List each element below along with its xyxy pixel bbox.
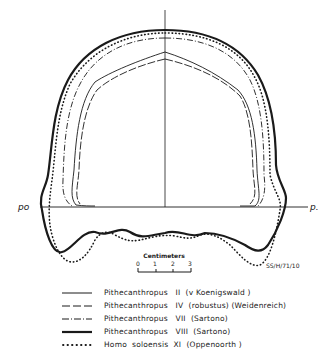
thin-solid-line-icon	[62, 289, 92, 297]
scale-tick-1: 1	[153, 260, 157, 267]
scale-bar: Centimeters 0 1 2 3	[136, 252, 192, 272]
legend-item-pithecanthropus-ii: Pithecanthropus II (v Koenigswald )	[62, 286, 322, 299]
legend: Pithecanthropus II (v Koenigswald ) Pith…	[62, 286, 322, 351]
dotted-line-icon	[62, 341, 92, 349]
scale-tick-3: 3	[188, 260, 192, 267]
outline-pithecanthropus-viii	[41, 30, 286, 252]
legend-item-pithecanthropus-viii: Pithecanthropus VIII (Sartono)	[62, 325, 322, 338]
dash-dot-line-icon	[62, 315, 92, 323]
outline-pithecanthropus-iv	[77, 59, 255, 204]
legend-item-homo-soloensis-xi: Homo soloensis XI (Oppenoorth )	[62, 338, 322, 351]
legend-label: Pithecanthropus VIII (Sartono)	[104, 327, 230, 336]
label-po: po	[17, 202, 30, 212]
legend-label: Pithecanthropus VII (Sartono)	[104, 314, 228, 323]
legend-label: Homo soloensis XI (Oppenoorth )	[104, 340, 242, 349]
scale-title: Centimeters	[143, 252, 185, 259]
outline-pithecanthropus-ii	[72, 52, 259, 206]
legend-label: Pithecanthropus II (v Koenigswald )	[104, 288, 251, 297]
thick-solid-line-icon	[62, 328, 92, 336]
label-p: p.	[309, 202, 319, 212]
scale-tick-0: 0	[136, 260, 140, 267]
outline-pithecanthropus-vii	[63, 38, 265, 206]
scale-tick-2: 2	[171, 260, 175, 267]
legend-label: Pithecanthropus IV (robustus) (Weidenrei…	[104, 301, 286, 310]
dashed-line-icon	[62, 302, 92, 310]
legend-item-pithecanthropus-iv: Pithecanthropus IV (robustus) (Weidenrei…	[62, 299, 322, 312]
figure-code: SS/H/71/10	[266, 262, 300, 269]
legend-item-pithecanthropus-vii: Pithecanthropus VII (Sartono)	[62, 312, 322, 325]
